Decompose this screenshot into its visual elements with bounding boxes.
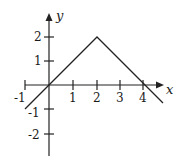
y-tick-label: 2 bbox=[34, 30, 42, 44]
y-tick-label: 1 bbox=[34, 54, 42, 68]
y-tick-label: -1 bbox=[28, 106, 40, 120]
x-tick-label: 1 bbox=[69, 91, 77, 105]
x-tick-label: 3 bbox=[116, 91, 124, 105]
y-axis-label: y bbox=[55, 8, 64, 23]
x-tick-label: 4 bbox=[139, 91, 147, 105]
x-axis-label: x bbox=[166, 82, 174, 97]
graph-figure: y x -1 1 2 3 4 2 1 -1 -2 bbox=[0, 0, 182, 167]
x-tick-label: 2 bbox=[93, 91, 101, 105]
x-tick-label: -1 bbox=[14, 91, 26, 105]
y-tick-label: -2 bbox=[28, 128, 40, 142]
y-axis-arrow-icon bbox=[46, 13, 53, 21]
x-axis-arrow-icon bbox=[156, 82, 164, 89]
